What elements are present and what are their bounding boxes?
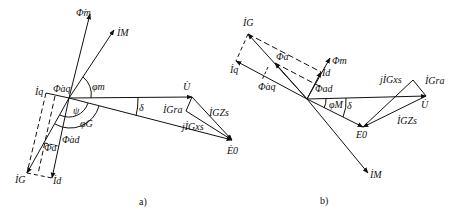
phi-m-arc (83, 77, 91, 98)
label-i-d: İd (322, 68, 330, 78)
label-i-q: İq (230, 65, 238, 75)
label-e0: Ė0 (227, 146, 238, 156)
label-u: U̇ (421, 100, 428, 110)
u-vector (307, 96, 426, 99)
label-phi-m-angle: φm (92, 82, 105, 92)
label-phi-aq: Φ̇aq (258, 82, 276, 92)
delta-arc (136, 98, 138, 116)
label-phi-aq: Φ̇aq (53, 84, 71, 94)
phi-a-vector (275, 63, 307, 99)
label-i-d: İd (53, 176, 61, 186)
label-i-q: İq (35, 87, 43, 97)
label-u: U̇ (183, 82, 190, 92)
label-ig-ra: İGra (425, 76, 444, 86)
label-phi-ad: Φ̇ad (62, 135, 80, 145)
label-i-g: İG (243, 18, 254, 28)
label-phi-m-angle: φM (329, 100, 343, 110)
i-q-vector (236, 61, 307, 99)
label-i-m: İM (370, 170, 382, 180)
caption-b: b) (320, 195, 328, 206)
ig-ra-vector (186, 97, 192, 111)
label-phi-a: Φ̇a (44, 143, 57, 153)
label-psi: ψ (73, 106, 79, 116)
diagram-a (27, 14, 232, 178)
delta-arc (343, 98, 346, 117)
label-i-m: İM (117, 28, 129, 38)
label-i-g: İG (15, 175, 26, 185)
label-delta: δ (139, 103, 144, 113)
label-e0: E0 (356, 130, 367, 140)
label-phi-g: φG (80, 119, 93, 129)
label-j-ig-xs: jİGxs (380, 75, 402, 85)
label-delta: δ (347, 101, 352, 111)
label-phi-m: Φm (332, 56, 347, 66)
label-phi-a: Φa (276, 52, 289, 62)
phi-m-arc (324, 99, 326, 108)
label-phi-ad: Φad (315, 84, 333, 94)
label-ig-zs: İGZs (397, 116, 417, 126)
label-ig-zs: İGZs (209, 108, 229, 118)
label-phi-m: Φ̇m (76, 8, 91, 18)
phi-m-vector (69, 14, 90, 98)
label-ig-ra: İGra (163, 105, 182, 115)
label-j-ig-xs: jİGxs (182, 122, 204, 132)
e0-vector (69, 98, 232, 140)
u-vector (69, 97, 192, 98)
caption-a: a) (139, 196, 147, 207)
